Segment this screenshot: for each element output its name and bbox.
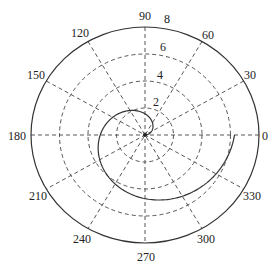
polar-chart: 90 60 30 0 330 300 270 240 210 180 150 1… xyxy=(0,0,276,273)
angle-label-30: 30 xyxy=(244,68,256,82)
angle-label-240: 240 xyxy=(73,232,91,246)
radial-label-2: 2 xyxy=(153,95,159,109)
angle-label-150: 150 xyxy=(27,68,45,82)
radial-label-4: 4 xyxy=(157,68,163,82)
angle-label-330: 330 xyxy=(243,189,261,203)
angle-label-210: 210 xyxy=(29,189,47,203)
angle-label-0: 0 xyxy=(262,129,268,143)
angle-label-270: 270 xyxy=(137,250,155,264)
angle-label-90: 90 xyxy=(139,9,151,23)
origin-dot xyxy=(143,133,147,137)
radial-label-8: 8 xyxy=(164,12,170,26)
angle-label-300: 300 xyxy=(197,232,215,246)
angle-label-120: 120 xyxy=(71,26,89,40)
angle-label-180: 180 xyxy=(8,129,26,143)
radial-label-6: 6 xyxy=(160,40,166,54)
angle-label-60: 60 xyxy=(202,28,214,42)
